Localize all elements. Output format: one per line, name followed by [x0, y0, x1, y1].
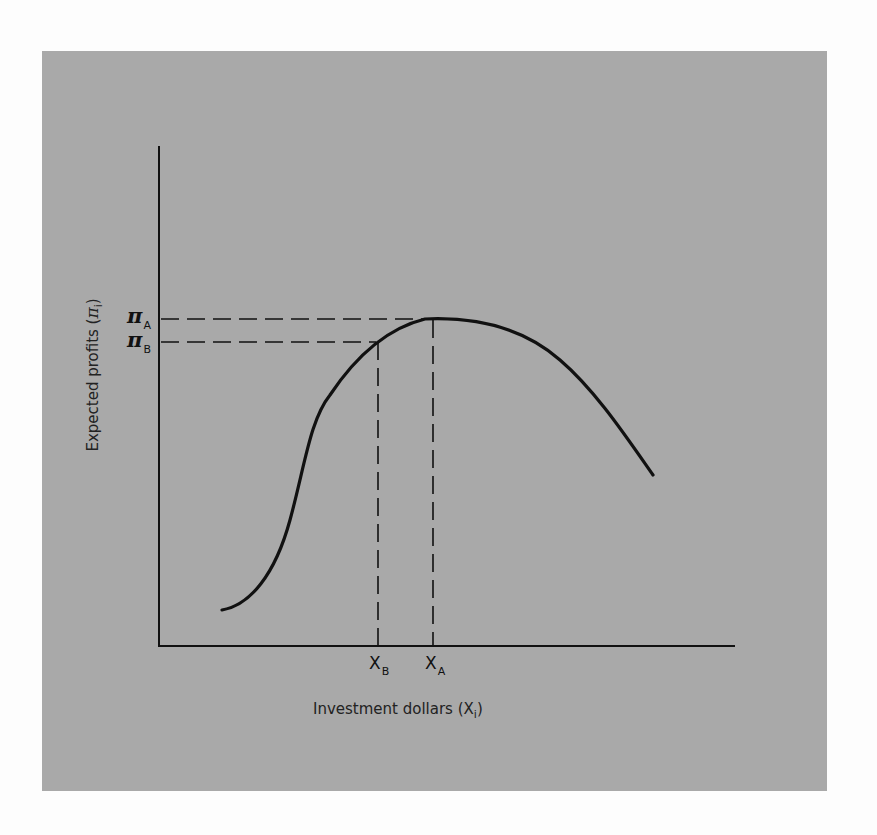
y-axis-title: Expected profits (πi) — [82, 298, 105, 451]
y-axis-title-subscript: i — [92, 304, 105, 307]
y-axis-title-text: Expected profits ( — [84, 319, 102, 452]
y-tick-pi-b-subscript: B — [143, 343, 151, 356]
y-tick-pi-b: πB — [127, 327, 151, 352]
y-tick-pi-a-symbol: π — [127, 303, 142, 328]
y-axis-title-close: ) — [84, 298, 102, 304]
x-axis-title: Investment dollars (Xi) — [313, 700, 483, 721]
profit-curve — [222, 319, 653, 610]
x-tick-x-b-subscript: B — [382, 665, 390, 678]
y-tick-pi-b-symbol: π — [127, 327, 142, 352]
x-axis-title-text: Investment dollars (X — [313, 700, 474, 718]
x-tick-x-b: XB — [369, 653, 389, 673]
pi-symbol: π — [82, 307, 102, 318]
x-axis-title-close: ) — [477, 700, 483, 718]
x-tick-x-a: XA — [425, 653, 445, 673]
x-tick-x-a-symbol: X — [425, 653, 437, 673]
y-tick-pi-a: πA — [127, 303, 151, 328]
x-tick-x-b-symbol: X — [369, 653, 381, 673]
reference-lines — [161, 319, 433, 645]
x-tick-x-a-subscript: A — [438, 665, 446, 678]
